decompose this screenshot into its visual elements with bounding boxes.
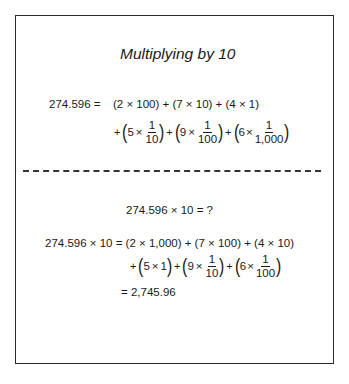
open-paren: ( <box>138 256 143 276</box>
fraction-numerator: 1 <box>265 120 273 133</box>
close-paren: ) <box>159 122 164 142</box>
term-coefficient: 5 <box>143 260 149 272</box>
fraction: 1 1,000 <box>255 120 284 145</box>
times-sign: × <box>196 260 203 272</box>
fraction-denominator: 100 <box>198 133 217 145</box>
open-paren: ( <box>233 122 238 142</box>
open-paren: ( <box>175 122 180 142</box>
expansion-line-2: + ( 5 × 1 10 ) + ( 9 × 1 100 ) + ( 6 × 1… <box>112 118 289 146</box>
open-paren: ( <box>122 122 127 142</box>
fraction-numerator: 1 <box>208 254 216 267</box>
plus-sign: + <box>226 260 232 272</box>
plus-sign: + <box>174 260 180 272</box>
result-line: = 2,745.96 <box>121 285 176 299</box>
expansion-line-1: (2 × 100) + (7 × 10) + (4 × 1) <box>113 97 259 111</box>
plus-sign: + <box>166 126 172 138</box>
times-sign: × <box>136 126 143 138</box>
fraction-numerator: 1 <box>261 254 269 267</box>
fraction-denominator: 1,000 <box>255 133 284 145</box>
solution-line-1: 274.596 × 10 = (2 × 1,000) + (7 × 100) +… <box>45 236 294 250</box>
fraction: 1 100 <box>256 254 275 279</box>
fraction-denominator: 100 <box>256 267 275 279</box>
open-paren: ( <box>182 256 187 276</box>
open-paren: ( <box>235 256 240 276</box>
plus-sign: + <box>130 260 136 272</box>
fraction-numerator: 1 <box>203 120 211 133</box>
close-paren: ) <box>276 256 281 276</box>
expansion-lhs: 274.596 = <box>49 97 100 111</box>
term-coefficient: 9 <box>187 260 193 272</box>
page-title: Multiplying by 10 <box>120 45 235 63</box>
question-line: 274.596 × 10 = ? <box>126 203 213 217</box>
times-sign: × <box>246 126 253 138</box>
plus-sign: + <box>114 126 120 138</box>
term-coefficient: 5 <box>127 126 133 138</box>
fraction-denominator: 10 <box>146 133 159 145</box>
fraction: 1 10 <box>206 254 219 279</box>
fraction: 1 10 <box>146 120 159 145</box>
close-paren: ) <box>284 122 289 142</box>
times-sign: × <box>188 126 195 138</box>
close-paren: ) <box>167 256 172 276</box>
times-sign: × <box>247 260 254 272</box>
term-coefficient: 6 <box>239 126 245 138</box>
fraction-numerator: 1 <box>148 120 156 133</box>
worksheet-frame <box>15 15 334 364</box>
plus-sign: + <box>225 126 231 138</box>
term-coefficient: 6 <box>240 260 246 272</box>
times-sign: × <box>152 260 159 272</box>
close-paren: ) <box>218 122 223 142</box>
fraction: 1 100 <box>198 120 217 145</box>
close-paren: ) <box>219 256 224 276</box>
term-coefficient: 9 <box>180 126 186 138</box>
dashed-divider <box>23 170 321 172</box>
fraction-denominator: 10 <box>206 267 219 279</box>
solution-line-2: + ( 5 × 1 ) + ( 9 × 1 10 ) + ( 6 × 1 100… <box>128 252 281 280</box>
